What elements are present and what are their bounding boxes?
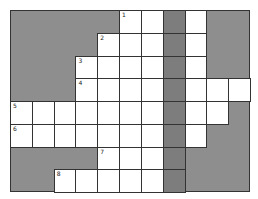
crossword-grid: 12345678 <box>10 10 250 192</box>
shaded-cell <box>163 33 186 57</box>
shaded-cell <box>163 56 186 80</box>
grid-cell[interactable]: 2 <box>97 33 120 57</box>
grid-cell[interactable]: 1 <box>119 10 142 34</box>
grid-cell[interactable] <box>119 124 142 148</box>
shaded-cell <box>163 78 186 102</box>
clue-number: 1 <box>122 11 126 18</box>
grid-cell[interactable]: 7 <box>97 147 120 171</box>
grid-cell[interactable] <box>185 56 208 80</box>
grid-cell[interactable] <box>97 124 120 148</box>
grid-cell[interactable] <box>119 147 142 171</box>
grid-cell[interactable] <box>119 101 142 125</box>
grid-cell[interactable] <box>32 101 55 125</box>
clue-number: 8 <box>57 170 61 177</box>
grid-cell[interactable] <box>119 33 142 57</box>
grid-cell[interactable] <box>119 78 142 102</box>
grid-cell[interactable] <box>141 78 164 102</box>
shaded-cell <box>163 124 186 148</box>
clue-number: 3 <box>78 57 82 64</box>
grid-cell[interactable] <box>141 56 164 80</box>
clue-number: 7 <box>100 148 104 155</box>
grid-cell[interactable] <box>228 78 251 102</box>
grid-cell[interactable] <box>141 33 164 57</box>
grid-cell[interactable] <box>141 124 164 148</box>
grid-cell[interactable] <box>185 78 208 102</box>
grid-cell[interactable] <box>141 169 164 193</box>
grid-cell[interactable]: 5 <box>10 101 33 125</box>
grid-cell[interactable] <box>97 101 120 125</box>
grid-cell[interactable]: 6 <box>10 124 33 148</box>
grid-cell[interactable] <box>75 101 98 125</box>
grid-cell[interactable] <box>54 101 77 125</box>
grid-cell[interactable] <box>206 101 229 125</box>
clue-number: 6 <box>13 125 17 132</box>
grid-cell[interactable] <box>141 10 164 34</box>
grid-cell[interactable] <box>97 78 120 102</box>
grid-cell[interactable]: 4 <box>75 78 98 102</box>
clue-number: 5 <box>13 102 17 109</box>
clue-number: 4 <box>78 79 82 86</box>
grid-cell[interactable] <box>141 147 164 171</box>
shaded-cell <box>163 147 186 171</box>
shaded-cell <box>163 10 186 34</box>
shaded-cell <box>163 169 186 193</box>
grid-cell[interactable] <box>185 10 208 34</box>
grid-cell[interactable] <box>32 124 55 148</box>
grid-cell[interactable]: 3 <box>75 56 98 80</box>
grid-cell[interactable] <box>119 169 142 193</box>
grid-cell[interactable] <box>54 124 77 148</box>
clue-number: 2 <box>100 34 104 41</box>
grid-cell[interactable] <box>141 101 164 125</box>
shaded-cell <box>163 101 186 125</box>
grid-cell[interactable]: 8 <box>54 169 77 193</box>
grid-cell[interactable] <box>206 78 229 102</box>
grid-cell[interactable] <box>97 56 120 80</box>
grid-cell[interactable] <box>185 33 208 57</box>
grid-cell[interactable] <box>75 169 98 193</box>
grid-cell[interactable] <box>185 101 208 125</box>
grid-cell[interactable] <box>119 56 142 80</box>
grid-cell[interactable] <box>97 169 120 193</box>
grid-cell[interactable] <box>185 124 208 148</box>
grid-cell[interactable] <box>75 124 98 148</box>
